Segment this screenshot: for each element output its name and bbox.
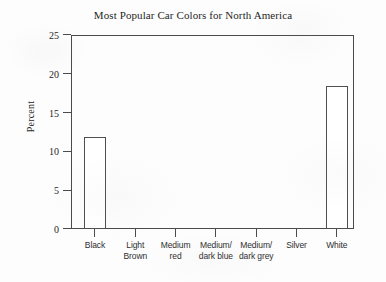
y-axis-tick bbox=[63, 34, 71, 35]
bar-black bbox=[84, 137, 106, 229]
y-axis-tick bbox=[63, 112, 71, 113]
y-axis-tick-label: 15 bbox=[19, 107, 59, 118]
y-axis-tick-label: 20 bbox=[19, 68, 59, 79]
y-axis-tick-label: 0 bbox=[19, 224, 59, 235]
chart-title: Most Popular Car Colors for North Americ… bbox=[0, 9, 386, 21]
x-axis-tick-label: White bbox=[300, 240, 374, 251]
y-axis-tick bbox=[63, 190, 71, 191]
x-axis-tick-label-line2: dark grey bbox=[219, 251, 293, 262]
x-axis-tick bbox=[256, 229, 257, 237]
x-axis-tick bbox=[94, 229, 95, 237]
x-axis-tick bbox=[336, 229, 337, 237]
bar-white bbox=[326, 86, 348, 229]
chart-figure: Most Popular Car Colors for North Americ… bbox=[0, 0, 386, 282]
x-axis-tick bbox=[296, 229, 297, 237]
x-axis-tick-label-line1: White bbox=[326, 240, 347, 250]
y-axis-tick-label: 10 bbox=[19, 146, 59, 157]
y-axis-tick bbox=[63, 228, 71, 229]
y-axis-tick-label: 25 bbox=[19, 30, 59, 41]
y-axis-tick bbox=[63, 151, 71, 152]
y-axis-tick bbox=[63, 73, 71, 74]
x-axis-tick bbox=[135, 229, 136, 237]
x-axis-tick bbox=[215, 229, 216, 237]
y-axis-tick-label: 5 bbox=[19, 185, 59, 196]
x-axis-tick bbox=[175, 229, 176, 237]
plot-area bbox=[71, 35, 354, 229]
